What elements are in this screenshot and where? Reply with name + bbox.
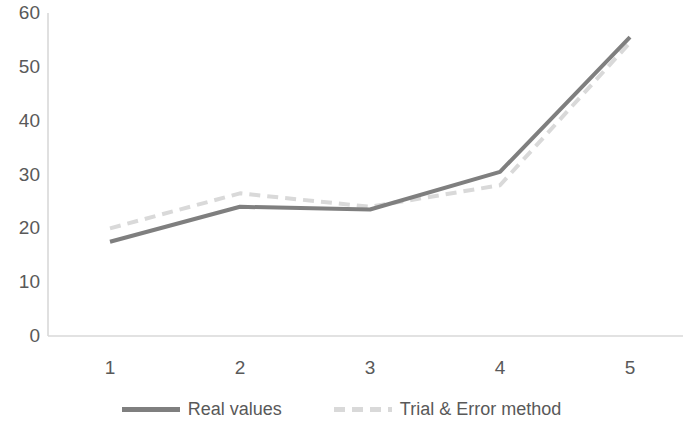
x-axis-tick-label: 4 xyxy=(470,358,530,377)
series-line-real-values xyxy=(110,37,630,242)
legend-label: Real values xyxy=(188,399,282,420)
y-axis-tick-label: 60 xyxy=(0,3,40,22)
x-axis-tick-label: 3 xyxy=(340,358,400,377)
y-axis-tick-label: 20 xyxy=(0,218,40,237)
y-axis-tick-label: 40 xyxy=(0,111,40,130)
y-axis-tick-label: 0 xyxy=(0,326,40,345)
line-chart: 0102030405060 12345 Real values Trial & … xyxy=(0,0,683,423)
legend-entry-real-values[interactable]: Real values xyxy=(122,399,282,420)
legend-label: Trial & Error method xyxy=(400,399,561,420)
chart-legend: Real values Trial & Error method xyxy=(0,396,683,423)
series-line-trial-error-method xyxy=(110,43,630,229)
legend-entry-trial-error-method[interactable]: Trial & Error method xyxy=(334,399,561,420)
dashed-line-swatch xyxy=(334,407,392,412)
x-axis-tick-label: 2 xyxy=(210,358,270,377)
x-axis-tick-label: 1 xyxy=(80,358,140,377)
y-axis-tick-label: 50 xyxy=(0,57,40,76)
y-axis-tick-label: 30 xyxy=(0,165,40,184)
y-axis-tick-label: 10 xyxy=(0,272,40,291)
solid-line-swatch xyxy=(122,407,180,412)
series-layer xyxy=(110,37,630,242)
x-axis-tick-label: 5 xyxy=(600,358,660,377)
